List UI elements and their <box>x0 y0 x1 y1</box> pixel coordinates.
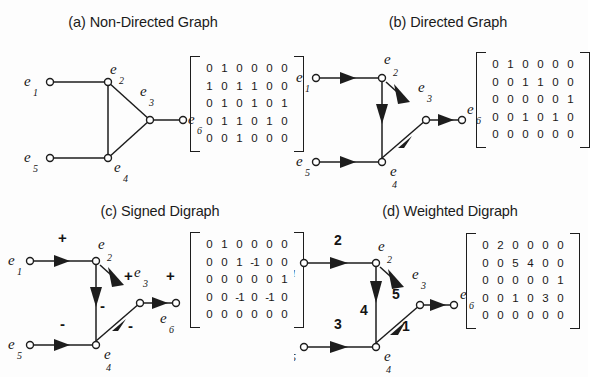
matrix-cell: 1 <box>503 56 518 74</box>
node-e2 <box>105 79 112 86</box>
panel-signed-digraph: (c) Signed Digraph e 1 e 2 e <box>0 189 294 377</box>
node-sub-e6: 6 <box>169 324 174 335</box>
matrix-cell: -1 <box>262 289 277 307</box>
matrix-cell: 0 <box>538 307 553 325</box>
matrix-cell: 0 <box>538 272 553 290</box>
node-e4 <box>105 155 112 162</box>
matrix-cell: 1 <box>202 78 217 96</box>
arrowhead-e1-e2 <box>54 255 70 267</box>
node-e1 <box>313 75 320 82</box>
node-e4 <box>373 344 380 351</box>
matrix-cell: 0 <box>518 126 533 144</box>
matrix-cell: 0 <box>503 126 518 144</box>
node-e2 <box>373 260 380 267</box>
node-label-e1: e <box>296 69 303 85</box>
matrix-grid-c: 010000001-10000000100-10-10000000 <box>200 232 294 328</box>
matrix-cell: 1 <box>508 290 523 308</box>
matrix-cell: 0 <box>262 130 277 148</box>
node-e5 <box>27 342 34 349</box>
matrix-cell: 1 <box>217 236 232 254</box>
matrix-cell: 0 <box>247 60 262 78</box>
matrix-cell: 0 <box>533 126 548 144</box>
node-label-e6: e <box>467 101 474 117</box>
matrix-cell: 5 <box>508 255 523 273</box>
matrix-bracket-right <box>580 52 590 148</box>
matrix-cell: 0 <box>247 236 262 254</box>
node-e5 <box>313 159 320 166</box>
node-e2 <box>93 258 100 265</box>
matrix-cell: 0 <box>262 271 277 289</box>
matrix-cell: 0 <box>548 56 563 74</box>
matrix-cell: 1 <box>232 130 247 148</box>
edge-sign-e1-e2: + <box>58 229 67 246</box>
matrix-cell: 2 <box>493 237 508 255</box>
matrix-cell: 0 <box>553 290 568 308</box>
arrowhead-e3-e6 <box>430 299 446 311</box>
matrix-cell: 0 <box>538 237 553 255</box>
matrix-cell: 1 <box>518 74 533 92</box>
matrix-bracket-left <box>466 233 476 329</box>
matrix-cell: 0 <box>508 237 523 255</box>
matrix-cell: 1 <box>563 91 578 109</box>
matrix-cell: 0 <box>262 60 277 78</box>
edge-e4-e3 <box>376 305 420 343</box>
matrix-cell: 4 <box>523 255 538 273</box>
matrix-cell: 0 <box>548 74 563 92</box>
node-label-e4: e <box>384 348 391 364</box>
node-label-e2: e <box>110 61 117 77</box>
node-sub-e3: 3 <box>426 93 432 104</box>
matrix-grid-d: 020000005400000001001030000000 <box>476 233 570 329</box>
node-sub-e3: 3 <box>420 280 426 291</box>
matrix-cell: 0 <box>493 307 508 325</box>
matrix-cell: 1 <box>533 74 548 92</box>
node-label-e3: e <box>412 266 419 282</box>
arrowhead-e2-e3 <box>108 267 124 287</box>
node-sub-e5: 5 <box>17 350 22 361</box>
matrix-cell: 0 <box>232 271 247 289</box>
matrix-cell: 0 <box>503 91 518 109</box>
node-label-e2: e <box>384 51 391 67</box>
edge-sign-e2-e4: - <box>100 297 105 314</box>
node-sub-e2: 2 <box>107 252 112 263</box>
matrix-cell: 0 <box>262 78 277 96</box>
matrix-row: 001000 <box>202 130 292 148</box>
node-sub-e4: 4 <box>123 173 128 184</box>
node-e5 <box>47 155 54 162</box>
matrix-row: 010000 <box>202 236 292 254</box>
node-sub-e2: 2 <box>119 75 124 86</box>
matrix-cell: 1 <box>247 78 262 96</box>
node-e5 <box>301 344 308 351</box>
node-sub-e5: 5 <box>33 163 38 174</box>
matrix-cell: 0 <box>202 271 217 289</box>
node-sub-e1: 1 <box>294 268 296 279</box>
matrix-cell: 0 <box>523 237 538 255</box>
matrix-cell: 0 <box>508 307 523 325</box>
node-sub-e3: 3 <box>142 278 148 289</box>
node-label-e3: e <box>418 79 425 95</box>
node-sub-e1: 1 <box>305 83 310 94</box>
matrix-row: 000000 <box>488 126 578 144</box>
panel-d-title: (d) Weighted Digraph <box>294 203 588 219</box>
matrix-cell: 1 <box>217 95 232 113</box>
matrix-cell: 1 <box>518 109 533 127</box>
matrix-cell: 0 <box>217 306 232 324</box>
matrix-cell: 0 <box>202 60 217 78</box>
matrix-cell: 0 <box>232 306 247 324</box>
matrix-row: 000001 <box>202 271 292 289</box>
node-e1 <box>27 258 34 265</box>
node-label-e3: e <box>140 83 147 99</box>
matrix-cell: 0 <box>277 60 292 78</box>
node-e2 <box>379 75 386 82</box>
matrix-cell: 1 <box>232 78 247 96</box>
matrix-cell: 0 <box>232 236 247 254</box>
matrix-cell: 0 <box>217 289 232 307</box>
matrix-row: 010000 <box>202 60 292 78</box>
matrix-cell: 1 <box>232 113 247 131</box>
matrix-row: 000001 <box>488 91 578 109</box>
edge-sign-e4-e3: - <box>128 317 133 334</box>
node-label-e4: e <box>390 163 397 179</box>
panel-directed-graph: (b) Directed Graph e 1 e 2 e <box>294 0 588 188</box>
arrowhead-e5-e4 <box>340 156 356 168</box>
matrix-cell: 0 <box>503 109 518 127</box>
arrowhead-e1-e2 <box>340 72 356 84</box>
